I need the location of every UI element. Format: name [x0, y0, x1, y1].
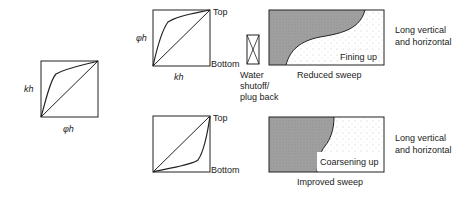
coarsening-up-label: Coarsening up: [320, 157, 379, 168]
action-label-line-1: Water: [240, 70, 264, 81]
plug-back-icon: [247, 35, 259, 64]
action-label-line-2: shutoff/: [240, 81, 269, 92]
fining-up-label: Fining up: [340, 52, 377, 63]
left-y-axis-label: kh: [24, 84, 34, 95]
bottom-bottom-label: Bottom: [211, 165, 240, 176]
top-top-label: Top: [213, 7, 228, 18]
bottom-scale-note-line-2: and horizontal: [395, 145, 452, 156]
top-scale-note-line-2: and horizontal: [395, 37, 452, 48]
bottom-lorenz-plot: [153, 116, 210, 172]
top-y-axis-label: φh: [136, 33, 147, 44]
top-lorenz-plot: [153, 10, 210, 66]
left-x-axis-label: φh: [63, 124, 74, 135]
action-label-line-3: plug back: [240, 92, 279, 103]
improved-sweep-caption: Improved sweep: [297, 177, 363, 188]
left-lorenz-plot: [41, 61, 98, 117]
top-x-axis-label: kh: [174, 72, 184, 83]
bottom-top-label: Top: [213, 113, 228, 124]
top-bottom-label: Bottom: [211, 59, 240, 70]
bottom-scale-note-line-1: Long vertical: [395, 133, 446, 144]
top-scale-note-line-1: Long vertical: [395, 25, 446, 36]
reduced-sweep-caption: Reduced sweep: [297, 70, 362, 81]
